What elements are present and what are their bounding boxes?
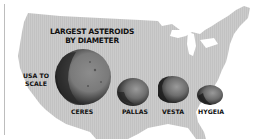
scale-note-line-2: SCALE (20, 80, 52, 88)
vesta-asteroid-image (158, 76, 189, 103)
chart-title: LARGEST ASTEROIDS BY DIAMETER (40, 27, 144, 45)
usa-to-scale-note: USA TO SCALE (20, 72, 52, 88)
label-ceres: CERES (62, 108, 102, 115)
label-pallas: PALLAS (115, 108, 155, 115)
label-hygeia: HYGEIA (191, 108, 231, 115)
label-vesta: VESTA (153, 108, 193, 115)
title-line-2: BY DIAMETER (40, 36, 144, 45)
hygeia-asteroid-image (197, 85, 223, 105)
pallas-asteroid-image (117, 78, 149, 106)
usa-map-silhouette (0, 0, 256, 139)
infographic-frame: LARGEST ASTEROIDS BY DIAMETER USA TO SCA… (0, 0, 256, 139)
scale-note-line-1: USA TO (20, 72, 52, 80)
title-line-1: LARGEST ASTEROIDS (40, 27, 144, 36)
ceres-asteroid-image (55, 49, 111, 105)
